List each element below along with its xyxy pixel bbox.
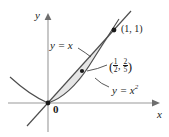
point-label-1-1: (1, 1) (121, 24, 143, 34)
leader-line-y-equals-x-squared (95, 78, 109, 87)
curve-label-y-equals-x-rhs: x (68, 39, 73, 51)
x-axis-arrowhead (152, 100, 160, 107)
centroid-fraction-y: 25 (123, 58, 128, 75)
origin-label: 0 (53, 104, 59, 115)
figure-region-between-curves: y x 0 y = x y = x2 (1, 1) (12, 25) (0, 0, 169, 137)
centroid-close-paren: ) (128, 59, 132, 74)
curve-label-y-equals-x-squared-lhs: y = (112, 84, 127, 96)
y-axis-label: y (35, 10, 40, 21)
point-label-centroid: (12, 25) (109, 58, 132, 75)
plot-canvas (0, 0, 169, 137)
centroid-fraction-x-denominator: 2 (113, 66, 118, 74)
curve-label-y-equals-x-squared: y = x2 (112, 84, 138, 96)
y-axis-arrowhead (45, 13, 52, 20)
centroid-fraction-y-denominator: 5 (123, 66, 128, 74)
curve-label-exponent: 2 (135, 83, 139, 91)
curve-label-y-equals-x-lhs: y = (50, 39, 65, 51)
leader-line-y-equals-x (78, 48, 91, 57)
point-centroid (80, 69, 84, 73)
leader-line-centroid (87, 65, 107, 71)
curve-label-y-equals-x: y = x (50, 40, 73, 51)
centroid-fraction-x: 12 (113, 58, 118, 75)
x-axis-label: x (157, 109, 162, 120)
centroid-comma: , (118, 60, 121, 71)
point-origin (46, 101, 51, 106)
point-intersection-1-1 (112, 28, 117, 33)
